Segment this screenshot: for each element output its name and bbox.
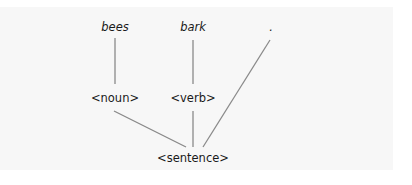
node-sentence: <sentence> (157, 152, 229, 165)
node-verb: <verb> (170, 92, 215, 105)
node-period: . (269, 21, 273, 34)
node-bees: bees (101, 21, 128, 34)
edge-noun-sentence (114, 111, 186, 147)
node-bark: bark (180, 21, 206, 34)
node-noun: <noun> (91, 92, 139, 105)
